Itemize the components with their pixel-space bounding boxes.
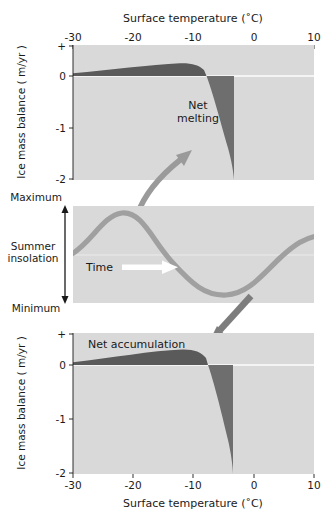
- mass-balance-insolation-figure: Surface temperature (˚C) -30 -20 -10 0 1…: [0, 0, 334, 521]
- insolation-min-label: Minimum: [12, 302, 61, 314]
- bottom-ytick-plus: +: [57, 328, 66, 340]
- bottom-xtick-4: 10: [307, 479, 320, 491]
- net-melting-label-line2: melting: [177, 112, 219, 125]
- insolation-axis-label-line2: insolation: [8, 252, 59, 264]
- bottom-panel-yaxis: [69, 333, 73, 474]
- bottom-ytick-0: 0: [59, 359, 66, 371]
- bottom-xtick-2: -10: [184, 479, 201, 491]
- bottom-ytick-minus2: -2: [56, 467, 66, 479]
- top-xtick-4: 10: [307, 31, 320, 43]
- top-xtick-1: -20: [124, 31, 141, 43]
- top-ytick-minus2: -2: [56, 173, 66, 185]
- bottom-yaxis-title: Ice mass balance ( m/yr ): [15, 336, 27, 469]
- figure-root: Surface temperature (˚C) -30 -20 -10 0 1…: [0, 0, 334, 521]
- top-ytick-0: 0: [59, 70, 66, 82]
- top-xtick-0: -30: [64, 31, 81, 43]
- net-melting-label-line1: Net: [188, 99, 208, 112]
- top-ytick-plus: +: [57, 40, 66, 52]
- top-axis-title: Surface temperature (˚C): [123, 12, 263, 25]
- top-yaxis-title: Ice mass balance ( m/yr ): [15, 45, 27, 178]
- time-label: Time: [85, 261, 113, 274]
- bottom-ytick-minus1: -1: [56, 413, 66, 425]
- top-panel-yaxis: [69, 45, 73, 180]
- top-ytick-minus1: -1: [56, 122, 66, 134]
- net-accumulation-label: Net accumulation: [88, 338, 185, 351]
- bottom-panel-xticks: [73, 474, 314, 478]
- top-xtick-3: 0: [251, 31, 258, 43]
- bottom-xtick-1: -20: [124, 479, 141, 491]
- bottom-axis-title: Surface temperature (˚C): [123, 497, 263, 510]
- bottom-xtick-3: 0: [251, 479, 258, 491]
- insolation-max-label: Maximum: [10, 191, 62, 203]
- insolation-axis-label-line1: Summer: [11, 240, 56, 252]
- top-xtick-2: -10: [184, 31, 201, 43]
- bottom-xtick-0: -30: [64, 479, 81, 491]
- insolation-range-arrow: [62, 205, 69, 304]
